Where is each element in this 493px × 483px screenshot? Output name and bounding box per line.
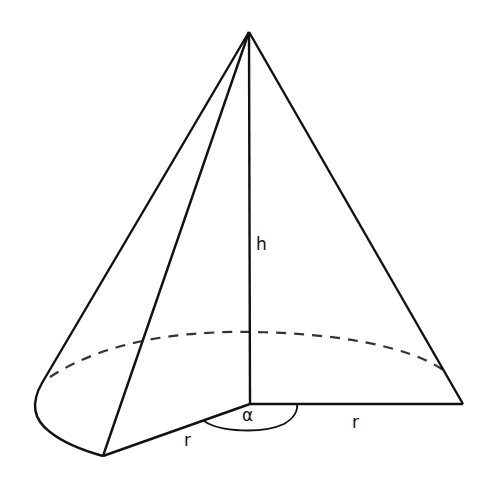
cone-left-outline [35, 32, 249, 456]
cone-diagram: h α r r [0, 0, 493, 483]
radius-left-label: r [184, 430, 191, 450]
radius-right-label: r [352, 412, 359, 432]
slant-edge-right [249, 32, 463, 404]
height-label: h [256, 234, 267, 254]
base-ellipse-hidden-edge [50, 332, 446, 377]
height-line [249, 32, 250, 404]
angle-label: α [242, 405, 253, 425]
